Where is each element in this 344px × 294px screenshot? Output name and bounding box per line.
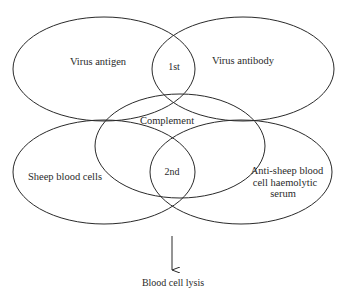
complement-label: Complement: [140, 115, 194, 126]
anti-sheep-serum-label-line3: serum: [270, 188, 296, 199]
anti-sheep-serum-label-line2: cell haemolytic: [253, 177, 318, 188]
anti-sheep-serum-label-line1: Anti-sheep blood: [251, 165, 324, 176]
second-reaction-label: 2nd: [165, 166, 180, 177]
sheep-blood-cells-label: Sheep blood cells: [28, 171, 102, 182]
outcome-label: Blood cell lysis: [142, 277, 204, 288]
first-reaction-label: 1st: [168, 61, 180, 72]
virus-antigen-label: Virus antigen: [70, 56, 127, 67]
complement-ellipse: [95, 94, 265, 198]
complement-fixation-diagram: Virus antigen Virus antibody Complement …: [0, 0, 344, 294]
virus-antibody-label: Virus antibody: [212, 55, 275, 66]
